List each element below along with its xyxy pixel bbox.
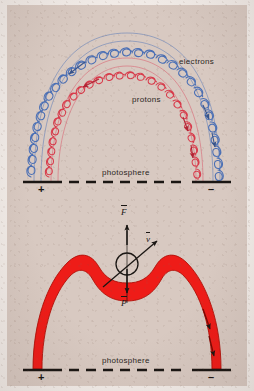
figure-container: electrons protons photosphere + – — [0, 0, 254, 391]
pressure-vector-label: P — [121, 296, 127, 308]
velocity-vector-symbol: v — [146, 234, 150, 244]
pressure-vector-overbar — [121, 296, 127, 297]
polarity-positive-top: + — [38, 183, 44, 195]
velocity-vector-label: v — [146, 232, 150, 244]
figure-plate: electrons protons photosphere + – — [7, 5, 247, 386]
polarity-negative-bottom: – — [208, 371, 214, 383]
proton-coil-group — [45, 71, 201, 179]
force-vector-overbar — [121, 205, 127, 206]
electron-coil-group — [26, 48, 224, 183]
electron-arch-strands — [34, 33, 220, 181]
electrons-label: electrons — [179, 57, 214, 66]
pressure-vector-symbol: P — [121, 298, 127, 308]
photosphere-label-top: photosphere — [102, 168, 150, 177]
photosphere-label-bottom: photosphere — [102, 356, 150, 365]
force-vector-label: F — [121, 205, 127, 217]
polarity-negative-top: – — [208, 183, 214, 195]
protons-label: protons — [132, 95, 161, 104]
velocity-vector-overbar — [146, 232, 150, 233]
charged-particle-spiral-panel: electrons protons photosphere + – — [7, 5, 247, 201]
polarity-positive-bottom: + — [38, 371, 44, 383]
proton-direction-arrows — [83, 79, 193, 158]
magnetic-flux-tube-panel: F v P photosphere + – — [7, 201, 247, 386]
force-vector-symbol: F — [121, 207, 127, 217]
